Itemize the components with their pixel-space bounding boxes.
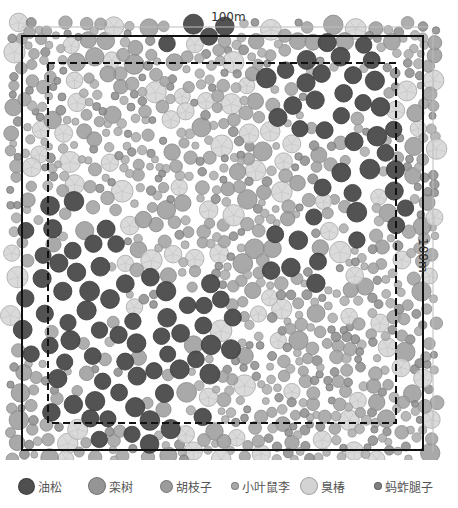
- tree-circle: [93, 90, 102, 99]
- tree-circle: [405, 455, 413, 460]
- tree-circle: [206, 355, 214, 363]
- tree-circle: [128, 148, 136, 156]
- tree-circle: [81, 438, 91, 448]
- tree-circle: [239, 451, 250, 460]
- tree-circle: [285, 323, 296, 334]
- tree-circle: [298, 366, 308, 376]
- tree-circle: [54, 282, 72, 300]
- tree-circle: [142, 129, 154, 141]
- tree-circle: [46, 143, 53, 150]
- tree-circle: [30, 371, 42, 383]
- tree-circle: [89, 451, 102, 461]
- tree-circle: [257, 185, 272, 200]
- tree-circle: [178, 269, 186, 277]
- tree-circle: [360, 147, 369, 156]
- tree-circle: [131, 200, 139, 208]
- tree-circle: [292, 164, 299, 171]
- tree-circle: [64, 242, 81, 259]
- tree-circle: [430, 317, 442, 329]
- legend-label: 胡枝子: [176, 478, 212, 495]
- tree-circle: [188, 351, 205, 368]
- tree-circle: [355, 95, 371, 111]
- tree-circle: [31, 451, 38, 458]
- tree-circle: [281, 212, 295, 226]
- tree-circle: [227, 253, 235, 261]
- tree-circle: [89, 163, 102, 176]
- tree-circle: [204, 218, 214, 228]
- tree-circle: [386, 121, 402, 137]
- tree-circle: [245, 320, 254, 329]
- tree-circle: [132, 169, 144, 181]
- tree-circle: [100, 66, 116, 82]
- tree-circle: [285, 429, 293, 437]
- tree-circle: [125, 313, 141, 329]
- tree-circle: [345, 133, 363, 151]
- tree-circle: [97, 220, 115, 238]
- tree-circle: [328, 313, 338, 323]
- tree-circle: [336, 265, 343, 272]
- tree-circle: [100, 411, 116, 427]
- tree-circle: [91, 257, 110, 276]
- tree-circle: [412, 282, 431, 301]
- legend-swatch-icon: [300, 477, 318, 495]
- tree-circle: [307, 274, 325, 292]
- tree-circle: [79, 89, 88, 98]
- tree-circle: [253, 142, 272, 161]
- tree-circle: [332, 436, 341, 445]
- tree-circle: [282, 258, 301, 277]
- tree-circle: [72, 385, 83, 396]
- tree-circle: [218, 408, 225, 415]
- tree-circle: [256, 342, 264, 350]
- tree-circle: [240, 96, 249, 105]
- tree-circle: [91, 431, 107, 447]
- tree-circle: [374, 300, 383, 309]
- tree-circle: [261, 209, 269, 217]
- tree-circle: [349, 232, 365, 248]
- tree-circle: [197, 195, 205, 203]
- tree-circle: [377, 410, 395, 428]
- tree-circle: [367, 126, 387, 146]
- tree-circle: [356, 362, 366, 372]
- tree-circle: [140, 19, 158, 37]
- tree-circle: [159, 170, 166, 177]
- tree-circle: [9, 91, 16, 98]
- tree-circle: [134, 234, 143, 243]
- legend-label: 小叶鼠李: [242, 478, 290, 495]
- tree-circle: [24, 123, 32, 131]
- tree-circle: [374, 216, 384, 226]
- tree-circle: [324, 302, 332, 310]
- tree-circle: [273, 143, 280, 150]
- tree-circle: [354, 124, 363, 133]
- tree-circle: [170, 360, 189, 379]
- tree-circle: [44, 220, 62, 238]
- legend-item: 胡枝子: [160, 474, 212, 498]
- tree-circle: [131, 114, 140, 123]
- tree-circle: [251, 19, 259, 27]
- tree-circle: [256, 278, 265, 287]
- tree-circle: [64, 395, 82, 413]
- tree-circle: [344, 184, 361, 201]
- tree-circle: [153, 328, 170, 345]
- tree-circle: [225, 386, 234, 395]
- tree-circle: [130, 90, 138, 98]
- tree-circle: [42, 434, 54, 446]
- tree-circle: [60, 67, 67, 74]
- tree-circle: [158, 182, 168, 192]
- legend-swatch-icon: [88, 477, 106, 495]
- tree-circle: [314, 326, 326, 338]
- tree-circle: [116, 275, 134, 293]
- tree-circle: [341, 364, 353, 376]
- tree-circle: [295, 318, 308, 331]
- tree-circle: [33, 437, 42, 446]
- tree-circle: [307, 324, 315, 332]
- tree-circle: [236, 396, 244, 404]
- tree-circle: [183, 227, 194, 238]
- tree-circle: [125, 21, 134, 30]
- tree-circle: [94, 373, 110, 389]
- tree-circle: [224, 263, 232, 271]
- tree-circle: [179, 297, 196, 314]
- tree-circle: [431, 351, 438, 358]
- tree-circle: [267, 375, 276, 384]
- tree-circle: [252, 372, 260, 380]
- tree-circle: [221, 155, 228, 162]
